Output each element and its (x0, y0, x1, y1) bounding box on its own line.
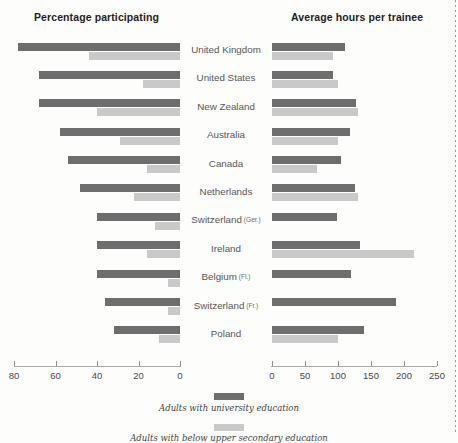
bar-right-university (272, 213, 337, 221)
bar-left-below-secondary (159, 335, 180, 343)
right-panel-title: Average hours per trainee (291, 11, 423, 23)
country-label-main: Ireland (211, 243, 241, 254)
left-axis-60-tick-label: 60 (50, 370, 61, 381)
bar-right-university (272, 184, 355, 192)
bar-left-below-secondary (168, 279, 180, 287)
right-axis-150-tick-label: 150 (363, 370, 379, 381)
left-axis-40-tick (97, 361, 98, 366)
legend-label-university: Adults with university education (0, 403, 458, 413)
chart-row: Canada (0, 152, 458, 180)
country-label-main: Netherlands (200, 186, 253, 197)
left-axis-line (14, 366, 181, 367)
country-label-sub: (Ger.) (242, 216, 261, 223)
bar-left-university (97, 270, 180, 278)
country-label: Switzerland (Fr.) (182, 300, 270, 311)
bar-left-university (39, 99, 180, 107)
chart-row: Poland (0, 322, 458, 350)
right-axis-0-tick (272, 361, 273, 366)
left-panel-title: Percentage participating (34, 11, 159, 23)
country-label: United Kingdom (182, 44, 270, 55)
country-label-main: United Kingdom (191, 44, 261, 55)
right-panel-bars (272, 237, 458, 265)
right-panel-bars (272, 322, 458, 350)
bar-right-below-secondary (272, 165, 317, 173)
left-panel-bars (0, 152, 180, 180)
bar-right-below-secondary (272, 137, 338, 145)
page-edge-dotted-rule (455, 0, 456, 435)
bar-left-university (60, 128, 180, 136)
left-axis-0-tick-label: 0 (177, 370, 182, 381)
left-axis-20-tick-label: 20 (133, 370, 144, 381)
chart-row: Switzerland (Ger.) (0, 208, 458, 236)
bar-left-university (97, 241, 180, 249)
country-label: Netherlands (182, 186, 270, 197)
chart-rows: United KingdomUnited StatesNew ZealandAu… (0, 38, 458, 350)
country-label-sub: (Fr.) (244, 302, 258, 309)
country-label: Poland (182, 328, 270, 339)
left-axis-20-tick (139, 361, 140, 366)
bar-right-university (272, 128, 350, 136)
right-axis-100-tick (338, 361, 339, 366)
left-axis-40-tick-label: 40 (92, 370, 103, 381)
bar-right-university (272, 241, 360, 249)
country-label-main: New Zealand (197, 101, 255, 112)
legend-label-below-secondary: Adults with below upper secondary educat… (0, 433, 458, 443)
country-label-main: Switzerland (191, 214, 242, 225)
bar-left-below-secondary (147, 250, 180, 258)
right-panel-bars (272, 180, 458, 208)
country-label-main: Poland (211, 328, 242, 339)
bar-right-below-secondary (272, 193, 358, 201)
left-panel-bars (0, 95, 180, 123)
left-panel-bars (0, 237, 180, 265)
bar-right-below-secondary (272, 335, 338, 343)
right-panel-bars (272, 152, 458, 180)
bar-left-below-secondary (155, 222, 180, 230)
bar-right-below-secondary (272, 52, 333, 60)
bar-right-university (272, 71, 333, 79)
left-panel-bars (0, 208, 180, 236)
left-panel-bars (0, 265, 180, 293)
bar-right-below-secondary (272, 250, 414, 258)
chart-row: United Kingdom (0, 38, 458, 66)
right-axis-250-tick-label: 250 (429, 370, 445, 381)
chart-row: New Zealand (0, 95, 458, 123)
left-axis-80-tick (14, 361, 15, 366)
chart-row: Australia (0, 123, 458, 151)
country-label: Ireland (182, 243, 270, 254)
right-axis-50-tick (305, 361, 306, 366)
country-label: Switzerland (Ger.) (182, 214, 270, 225)
chart-row: Netherlands (0, 180, 458, 208)
right-axis-0-tick-label: 0 (269, 370, 274, 381)
chart-row: Switzerland (Fr.) (0, 294, 458, 322)
bar-right-university (272, 298, 396, 306)
bar-left-below-secondary (89, 52, 180, 60)
left-panel-bars (0, 294, 180, 322)
left-axis-80-tick-label: 80 (9, 370, 20, 381)
country-label-main: Australia (207, 129, 245, 140)
bar-left-university (39, 71, 180, 79)
bar-right-below-secondary (272, 108, 358, 116)
right-panel-bars (272, 95, 458, 123)
country-label-sub: (Fl.) (237, 273, 251, 280)
bar-right-university (272, 43, 345, 51)
right-axis-200-tick (404, 361, 405, 366)
country-label-main: Switzerland (194, 300, 245, 311)
right-axis-150-tick (371, 361, 372, 366)
bar-left-university (18, 43, 180, 51)
country-label: New Zealand (182, 101, 270, 112)
bar-left-university (97, 213, 180, 221)
right-panel-bars (272, 38, 458, 66)
bar-left-university (80, 184, 180, 192)
bar-left-below-secondary (147, 165, 180, 173)
bar-left-university (68, 156, 180, 164)
chart-row: Ireland (0, 237, 458, 265)
right-panel-bars (272, 123, 458, 151)
right-axis-100-tick-label: 100 (330, 370, 346, 381)
bar-right-university (272, 99, 356, 107)
bar-left-below-secondary (134, 193, 180, 201)
legend-swatch-below-secondary (214, 424, 244, 431)
bar-right-below-secondary (272, 80, 338, 88)
left-panel-bars (0, 66, 180, 94)
bar-left-university (105, 298, 180, 306)
bar-right-university (272, 326, 364, 334)
